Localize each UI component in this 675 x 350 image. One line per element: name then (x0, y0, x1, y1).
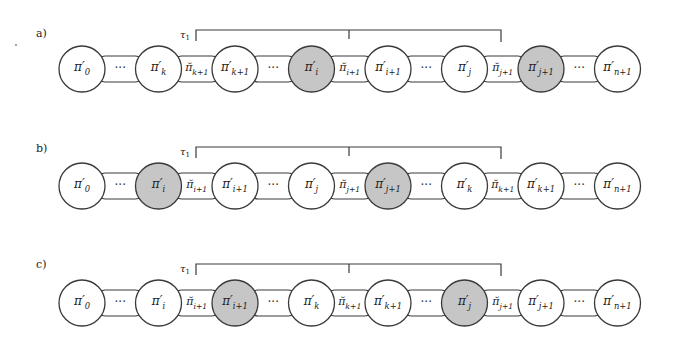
node-pi-k-plus-1: π′k+1 (518, 163, 564, 209)
node-pi-j: π′j (442, 46, 488, 92)
node-pi-j-plus-1: π′j+1 (518, 46, 564, 92)
permutation-diagram: a)τ1···π̆k+1···π̆i+1···π̆j+1···π′0π′kπ′k… (0, 0, 675, 350)
ellipsis: ··· (268, 295, 279, 309)
ellipsis: ··· (574, 178, 585, 192)
ellipsis: ··· (421, 61, 432, 75)
node-pi-0: π′0 (59, 280, 105, 326)
node-pi-k-plus-1: π′k+1 (212, 46, 258, 92)
ellipsis: ··· (574, 61, 585, 75)
row-label: b) (36, 142, 47, 155)
node-pi-j: π′j (289, 163, 335, 209)
node-pi-i-plus-1: π′i+1 (365, 46, 411, 92)
row-label: a) (36, 27, 47, 40)
ellipsis: ··· (421, 178, 432, 192)
node-pi-i-plus-1: π′i+1 (212, 280, 258, 326)
tau1-label: τ1 (180, 29, 190, 42)
ellipsis: ··· (421, 295, 432, 309)
node-pi-n-plus-1: π′n+1 (595, 46, 641, 92)
node-pi-i: π′i (136, 280, 182, 326)
tau1-label: τ1 (180, 146, 190, 159)
ellipsis: ··· (268, 61, 279, 75)
node-pi-j-plus-1: π′j+1 (518, 280, 564, 326)
tau1-label: τ1 (180, 263, 190, 276)
row-c: c)τ1···π̆i+1···π̆k+1···π̆j+1···π′0π′iπ′i… (36, 258, 641, 326)
stray-dot (15, 44, 17, 46)
ellipsis: ··· (115, 178, 126, 192)
node-pi-n-plus-1: π′n+1 (595, 280, 641, 326)
row-label: c) (36, 258, 46, 271)
tau1-bracket (196, 30, 501, 42)
row-b: b)τ1···π̆i+1···π̆j+1···π̆k+1···π′0π′iπ′i… (36, 142, 641, 209)
node-pi-n-plus-1: π′n+1 (595, 163, 641, 209)
node-pi-k: π′k (289, 280, 335, 326)
tau1-bracket (196, 264, 501, 276)
node-pi-i-plus-1: π′i+1 (212, 163, 258, 209)
node-pi-i: π′i (136, 163, 182, 209)
node-pi-j-plus-1: π′j+1 (365, 163, 411, 209)
node-pi-k-plus-1: π′k+1 (365, 280, 411, 326)
ellipsis: ··· (574, 295, 585, 309)
node-pi-k: π′k (442, 163, 488, 209)
node-pi-0: π′0 (59, 163, 105, 209)
node-pi-j: π′j (442, 280, 488, 326)
tau1-bracket (196, 147, 501, 159)
node-pi-i: π′i (289, 46, 335, 92)
ellipsis: ··· (115, 61, 126, 75)
row-a: a)τ1···π̆k+1···π̆i+1···π̆j+1···π′0π′kπ′k… (36, 27, 641, 92)
ellipsis: ··· (115, 295, 126, 309)
node-pi-0: π′0 (59, 46, 105, 92)
ellipsis: ··· (268, 178, 279, 192)
node-pi-k: π′k (136, 46, 182, 92)
